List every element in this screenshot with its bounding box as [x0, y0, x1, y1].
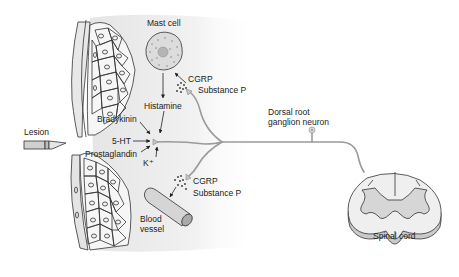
substance-p-bottom-label: Substance P [193, 188, 241, 198]
histamine-label: Histamine [144, 101, 182, 111]
prostaglandin-label: Prostaglandin [85, 149, 137, 159]
nociceptor-diagram: Mast cell CGRP Substance P Histamine Bra… [0, 0, 459, 277]
bradykinin-label: Bradykinin [97, 114, 137, 124]
drg-label-line1: Dorsal root [268, 107, 310, 117]
mast-cell-label: Mast cell [147, 18, 181, 28]
cgrp-bottom-label: CGRP [193, 176, 218, 186]
drg-label-line2: ganglion neuron [268, 117, 329, 127]
blood-vessel-label-line2: vessel [140, 224, 164, 234]
five-ht-label: 5-HT [112, 136, 131, 146]
cgrp-top-label: CGRP [188, 74, 213, 84]
k-plus-label: K⁺ [143, 158, 154, 168]
mast-cell [146, 32, 182, 70]
lesion-label: Lesion [24, 127, 49, 137]
spinal-cord-label: Spinal cord [373, 231, 416, 241]
substance-p-top-label: Substance P [198, 85, 246, 95]
blood-vessel-label-line1: Blood [140, 214, 162, 224]
lesion-scalpel [24, 141, 66, 149]
